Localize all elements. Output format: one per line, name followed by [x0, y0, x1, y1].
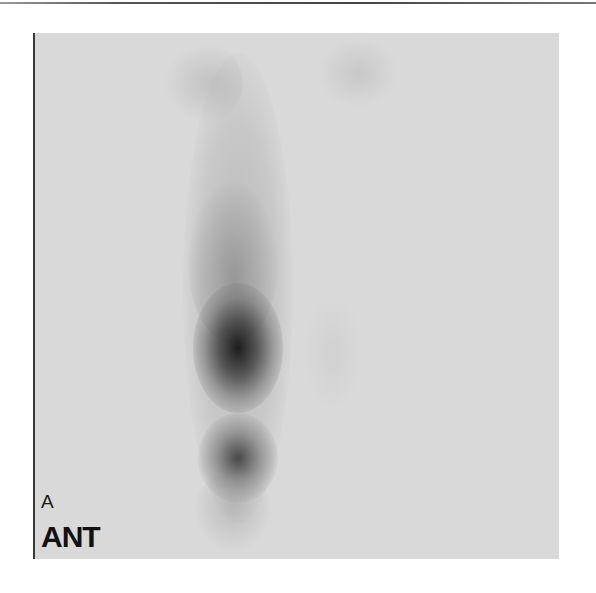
faint-uptake-right [303, 293, 363, 413]
faint-uptake-left-top [163, 43, 243, 123]
faint-uptake-right-top [318, 38, 398, 108]
panel-label: A [41, 491, 54, 513]
uptake-tail [193, 473, 273, 553]
top-rule [0, 2, 596, 4]
view-label: ANT [41, 520, 100, 554]
scintigraphy-image: A ANT [33, 33, 559, 559]
image-left-edge [33, 33, 35, 559]
uptake-hotspot-main [193, 283, 283, 413]
